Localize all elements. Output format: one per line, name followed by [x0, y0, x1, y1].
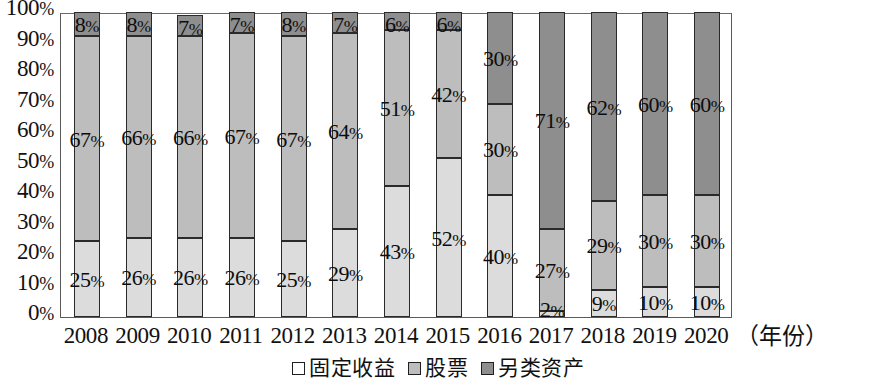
legend-item-label: 另类资产	[498, 358, 584, 379]
bar-value-label: 30%	[690, 231, 725, 255]
y-axis: 0%10%20%30%40%50%60%70%80%90%100%	[0, 8, 56, 320]
bar-value-label: 67%	[70, 129, 105, 153]
stacked-bar-chart: 0%10%20%30%40%50%60%70%80%90%100% 25%67%…	[0, 0, 876, 388]
bar-value-label: 60%	[690, 94, 725, 118]
y-axis-tick: 90%	[17, 26, 54, 51]
bar-value-label: 30%	[483, 48, 518, 72]
bar-value-label: 71%	[535, 110, 570, 134]
x-axis-tick: 2014	[374, 322, 418, 350]
bar-column[interactable]	[591, 14, 617, 317]
legend-item-label: 股票	[425, 358, 468, 379]
bar-value-label: 62%	[586, 97, 621, 121]
bar-value-label: 25%	[276, 269, 311, 293]
x-axis-tick: 2020	[684, 322, 728, 350]
bar-value-label: 26%	[173, 267, 208, 291]
bar-value-label: 52%	[431, 228, 466, 252]
bar-value-label: 29%	[328, 263, 363, 287]
legend-item-label: 固定收益	[309, 358, 395, 379]
bar-stack	[384, 14, 410, 317]
y-axis-tick: 40%	[17, 179, 54, 204]
bar-column[interactable]	[384, 14, 410, 317]
x-axis-tick: 2008	[64, 322, 108, 350]
legend-swatch-icon	[408, 362, 421, 375]
x-axis-tick: 2018	[581, 322, 625, 350]
bar-value-label: 8%	[282, 14, 306, 38]
x-axis-tick: 2016	[477, 322, 521, 350]
bar-column[interactable]	[694, 14, 720, 317]
bar-value-label: 64%	[328, 121, 363, 145]
bar-value-label: 60%	[638, 94, 673, 118]
y-axis-tick: 60%	[17, 118, 54, 143]
bar-value-label: 26%	[121, 267, 156, 291]
bar-stack	[642, 14, 668, 317]
bar-value-label: 25%	[70, 269, 105, 293]
bar-value-label: 26%	[225, 267, 260, 291]
legend-item[interactable]: 固定收益	[292, 358, 395, 379]
y-axis-tick: 20%	[17, 240, 54, 265]
x-axis: 2008200920102011201220132014201520162017…	[60, 322, 732, 352]
bar-value-label: 2%	[540, 299, 564, 323]
bar-value-label: 9%	[592, 293, 616, 317]
bar-stack	[694, 14, 720, 317]
bar-value-label: 7%	[178, 17, 202, 41]
bar-value-label: 6%	[437, 14, 461, 38]
bar-value-label: 8%	[75, 14, 99, 38]
y-axis-tick: 30%	[17, 209, 54, 234]
x-axis-tick: 2012	[270, 322, 314, 350]
x-axis-tick: 2011	[219, 322, 263, 350]
chart-legend: 固定收益股票另类资产	[0, 358, 876, 379]
legend-item[interactable]: 另类资产	[481, 358, 584, 379]
bar-stack	[591, 14, 617, 317]
bar-stack	[436, 14, 462, 317]
bar-value-label: 6%	[385, 14, 409, 38]
bar-value-label: 10%	[638, 292, 673, 316]
y-axis-tick: 70%	[17, 87, 54, 112]
bar-value-label: 7%	[230, 14, 254, 38]
y-axis-tick: 80%	[17, 57, 54, 82]
x-axis-tick: 2013	[322, 322, 366, 350]
bar-value-label: 27%	[535, 260, 570, 284]
x-axis-tick: 2017	[529, 322, 573, 350]
x-axis-tick: 2015	[425, 322, 469, 350]
bar-value-label: 7%	[333, 14, 357, 38]
bar-value-label: 8%	[126, 14, 150, 38]
bar-value-label: 51%	[380, 98, 415, 122]
bar-value-label: 30%	[638, 231, 673, 255]
legend-swatch-icon	[292, 362, 305, 375]
bar-column[interactable]	[642, 14, 668, 317]
bar-value-label: 67%	[276, 129, 311, 153]
bar-value-label: 40%	[483, 246, 518, 270]
bar-value-label: 67%	[225, 126, 260, 150]
x-axis-tick: 2019	[632, 322, 676, 350]
plot-area: 25%67%8%26%66%8%26%66%7%26%67%7%25%67%8%…	[60, 13, 732, 318]
x-axis-tick: 2010	[167, 322, 211, 350]
bar-value-label: 42%	[431, 84, 466, 108]
x-axis-tick: 2009	[115, 322, 159, 350]
bar-column[interactable]	[436, 14, 462, 317]
bar-value-label: 43%	[380, 241, 415, 265]
legend-swatch-icon	[481, 362, 494, 375]
bar-value-label: 66%	[121, 127, 156, 151]
y-axis-tick: 100%	[6, 0, 54, 21]
legend-item[interactable]: 股票	[408, 358, 468, 379]
bar-value-label: 29%	[586, 235, 621, 259]
x-axis-unit-label: （年份）	[736, 322, 828, 350]
bars-layer: 25%67%8%26%66%8%26%66%7%26%67%7%25%67%8%…	[61, 14, 731, 317]
bar-value-label: 66%	[173, 127, 208, 151]
y-axis-tick: 0%	[28, 301, 54, 326]
y-axis-tick: 50%	[17, 148, 54, 173]
y-axis-tick: 10%	[17, 270, 54, 295]
bar-value-label: 10%	[690, 292, 725, 316]
bar-value-label: 30%	[483, 139, 518, 163]
